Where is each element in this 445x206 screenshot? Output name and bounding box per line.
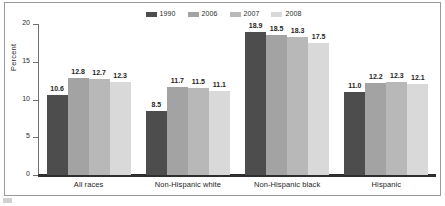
- legend-item-2007: 2007: [230, 10, 260, 18]
- bar-1990: [344, 92, 365, 175]
- bar-wrap: 12.3: [386, 24, 407, 175]
- bar-chart-figure: 1990 2006 2007 2008 Percent 20: [0, 0, 445, 206]
- bar-group-non-hispanic-black: 18.9 18.5 18.3 17.5: [238, 24, 337, 175]
- chart-frame: 1990 2006 2007 2008 Percent 20: [4, 2, 441, 196]
- legend-swatch-2007: [230, 12, 241, 17]
- bar-value: 8.5: [152, 101, 162, 109]
- bar-value: 12.3: [390, 72, 404, 80]
- bar-2006: [167, 87, 188, 175]
- bar-2008: [308, 43, 329, 175]
- bar-value: 12.3: [113, 72, 127, 80]
- bar-value: 11.5: [192, 78, 205, 86]
- y-tick-label-10: 10: [22, 95, 30, 103]
- bar-2007: [287, 37, 308, 175]
- bar-value: 18.9: [249, 22, 263, 30]
- legend-label-2007: 2007: [244, 10, 260, 18]
- legend-swatch-2006: [188, 12, 199, 17]
- y-tick-label-20: 20: [22, 19, 30, 27]
- plot-area: 20 15 10 5 0 10.6: [38, 24, 436, 175]
- bar-2006: [266, 35, 287, 175]
- legend-label-1990: 1990: [160, 10, 176, 18]
- bar-wrap: 18.9: [245, 24, 266, 175]
- bar-2006: [365, 83, 386, 175]
- bar-wrap: 10.6: [47, 24, 68, 175]
- bar-2008: [110, 82, 131, 175]
- bar-value: 11.0: [348, 82, 361, 90]
- bar-wrap: 12.7: [89, 24, 110, 175]
- legend-item-2008: 2008: [271, 10, 301, 18]
- bar-groups: 10.6 12.8 12.7 12.3: [39, 24, 436, 175]
- bar-2006: [68, 78, 89, 175]
- legend-label-2006: 2006: [202, 10, 218, 18]
- y-tick-10: 10: [33, 100, 38, 101]
- legend-item-2006: 2006: [188, 10, 218, 18]
- bar-group-all-races: 10.6 12.8 12.7 12.3: [39, 24, 138, 175]
- bar-value: 12.7: [92, 69, 106, 77]
- chart-legend: 1990 2006 2007 2008: [5, 10, 442, 18]
- bar-wrap: 11.0: [344, 24, 365, 175]
- bar-value: 18.5: [270, 25, 284, 33]
- bar-1990: [47, 95, 68, 175]
- bar-wrap: 17.5: [308, 24, 329, 175]
- bar-wrap: 18.5: [266, 24, 287, 175]
- bar-value: 11.7: [171, 77, 184, 85]
- bar-wrap: 11.5: [188, 24, 209, 175]
- bar-value: 12.8: [71, 68, 85, 76]
- legend-swatch-1990: [146, 12, 157, 17]
- legend-swatch-2008: [271, 12, 282, 17]
- bar-1990: [245, 32, 266, 175]
- bar-value: 10.6: [50, 85, 64, 93]
- y-tick-15: 15: [33, 62, 38, 63]
- bar-value: 17.5: [312, 33, 326, 41]
- bar-value: 18.3: [291, 27, 305, 35]
- bar-group-hispanic: 11.0 12.2 12.3 12.1: [337, 24, 436, 175]
- bar-2007: [188, 88, 209, 175]
- y-tick-0: 0: [33, 175, 38, 176]
- bar-value: 12.1: [411, 74, 425, 82]
- bar-2008: [209, 91, 230, 175]
- y-tick-label-5: 5: [26, 132, 30, 140]
- bar-wrap: 11.1: [209, 24, 230, 175]
- bar-wrap: 12.2: [365, 24, 386, 175]
- group-label-non-hispanic-white: Non-Hispanic white: [138, 180, 237, 189]
- group-label-non-hispanic-black: Non-Hispanic black: [238, 180, 337, 189]
- bar-group-non-hispanic-white: 8.5 11.7 11.5 11.1: [138, 24, 237, 175]
- bar-wrap: 12.1: [407, 24, 428, 175]
- bar-1990: [146, 111, 167, 175]
- bar-2008: [407, 84, 428, 175]
- y-tick-label-0: 0: [26, 170, 30, 178]
- bar-value: 11.1: [213, 81, 226, 89]
- bar-wrap: 12.3: [110, 24, 131, 175]
- bar-2007: [386, 82, 407, 175]
- group-label-hispanic: Hispanic: [337, 180, 436, 189]
- y-tick-20: 20: [33, 24, 38, 25]
- y-tick-label-15: 15: [22, 57, 30, 65]
- bar-2007: [89, 79, 110, 175]
- bar-value: 12.2: [369, 73, 383, 81]
- group-label-all-races: All races: [39, 180, 138, 189]
- legend-label-2008: 2008: [285, 10, 301, 18]
- bar-wrap: 12.8: [68, 24, 89, 175]
- bar-wrap: 8.5: [146, 24, 167, 175]
- bar-wrap: 18.3: [287, 24, 308, 175]
- y-tick-5: 5: [33, 137, 38, 138]
- bar-wrap: 11.7: [167, 24, 188, 175]
- page-corner-mark: [3, 198, 12, 203]
- legend-item-1990: 1990: [146, 10, 176, 18]
- y-axis-title: Percent: [9, 44, 18, 71]
